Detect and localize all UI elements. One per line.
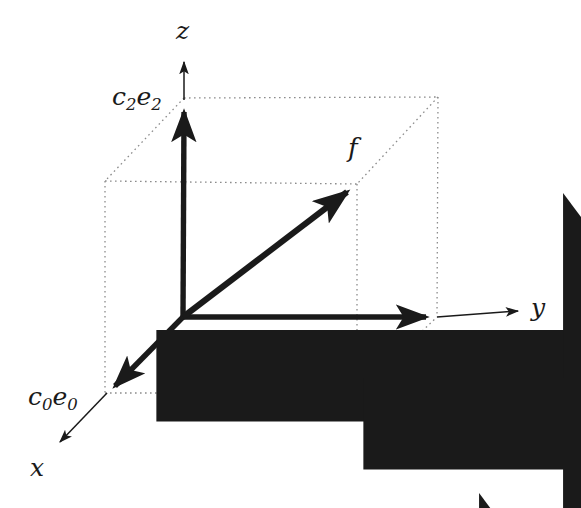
axis-label-z: z <box>176 18 189 43</box>
axes-group <box>60 62 518 442</box>
component-label-c0e0-coefficient: c0 <box>28 382 53 411</box>
axis-y-line <box>437 311 518 317</box>
component-label-c2e2: c2e2 <box>112 82 162 109</box>
vector-decomposition-figure: z y x c2e2 c1e1 c0e0 <box>0 0 581 508</box>
component-label-c1e1-coefficient: c1 <box>415 326 440 355</box>
vector-f-line <box>183 192 347 317</box>
cube-edge-vertical-back-right <box>437 97 438 317</box>
component-label-c1e1-basis: e1 <box>440 326 465 353</box>
component-vector-c2e2 <box>183 112 184 317</box>
figure-canvas <box>0 0 581 508</box>
cube-edge-top-back <box>184 97 438 98</box>
axis-label-x: x <box>30 455 44 480</box>
component-label-c0e0-basis: e0 <box>53 382 78 409</box>
component-vector-c0e0 <box>115 317 183 386</box>
component-label-c2e2-basis: e2 <box>137 82 162 109</box>
component-label-c2e2-coefficient: c2 <box>112 82 137 111</box>
cube-edge-top-right <box>357 97 438 184</box>
component-label-c1e1: c1e1 <box>415 326 465 353</box>
component-label-c0e0: c0e0 <box>28 382 78 409</box>
axis-label-y: y <box>531 295 545 320</box>
vector-label-f: f <box>348 133 358 161</box>
cube-edge-top-front <box>105 181 357 184</box>
vector-f-group <box>183 192 347 317</box>
